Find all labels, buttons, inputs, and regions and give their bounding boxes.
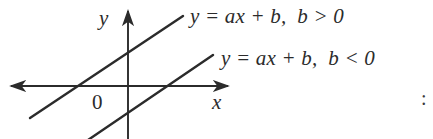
- line-positive-intercept: [30, 16, 183, 118]
- origin-label: 0: [92, 92, 103, 113]
- axis-y-label: y: [99, 8, 108, 29]
- equation-label-negative-b: y = ax + b, b < 0: [221, 48, 375, 69]
- linear-graph-figure: y = ax + b, b > 0 y = ax + b, b < 0 y x …: [0, 0, 433, 139]
- equation-label-positive-b: y = ax + b, b > 0: [190, 6, 344, 27]
- axis-x-label: x: [212, 92, 221, 113]
- trailing-colon-mark: :: [421, 88, 427, 108]
